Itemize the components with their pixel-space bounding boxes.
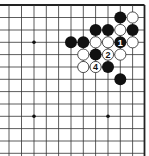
black-stone-icon bbox=[77, 36, 89, 48]
black-stone bbox=[127, 24, 139, 36]
black-stone bbox=[102, 24, 114, 36]
white-stone bbox=[115, 24, 126, 35]
black-stone-icon bbox=[90, 24, 102, 36]
black-stone-icon bbox=[90, 49, 102, 61]
black-stone bbox=[114, 73, 126, 85]
white-stone-icon bbox=[127, 12, 138, 23]
go-board-svg: 124 bbox=[0, 0, 149, 156]
move-number-label: 4 bbox=[93, 62, 98, 72]
white-stone bbox=[78, 49, 89, 60]
white-stone bbox=[115, 49, 126, 60]
black-stone-icon bbox=[114, 73, 126, 85]
white-stone bbox=[127, 12, 138, 23]
black-stone-icon bbox=[102, 61, 114, 73]
go-board-diagram: 124 bbox=[0, 0, 149, 156]
black-stone-icon bbox=[127, 24, 139, 36]
move-number-label: 1 bbox=[118, 38, 123, 48]
white-stone-icon bbox=[127, 37, 138, 48]
black-stone-icon bbox=[102, 24, 114, 36]
star-point bbox=[106, 115, 110, 119]
white-stone-icon bbox=[90, 37, 101, 48]
white-stone bbox=[78, 61, 89, 72]
star-point bbox=[32, 41, 36, 45]
white-stone-icon bbox=[102, 37, 113, 48]
black-stone-icon bbox=[65, 36, 77, 48]
white-stone-icon bbox=[115, 49, 126, 60]
white-stone-icon bbox=[115, 24, 126, 35]
stones: 124 bbox=[65, 12, 139, 86]
white-stone bbox=[90, 37, 101, 48]
black-stone bbox=[90, 24, 102, 36]
black-stone bbox=[65, 36, 77, 48]
black-stone bbox=[102, 61, 114, 73]
black-stone-icon bbox=[114, 12, 126, 24]
star-point bbox=[32, 115, 36, 119]
black-stone bbox=[90, 49, 102, 61]
white-stone bbox=[102, 37, 113, 48]
white-stone-icon bbox=[78, 61, 89, 72]
white-stone-move-2: 2 bbox=[102, 49, 113, 60]
white-stone-move-4: 4 bbox=[90, 61, 101, 72]
white-stone-icon bbox=[78, 49, 89, 60]
black-stone-move-1: 1 bbox=[114, 36, 126, 48]
white-stone bbox=[127, 37, 138, 48]
black-stone bbox=[77, 36, 89, 48]
black-stone bbox=[114, 12, 126, 24]
move-number-label: 2 bbox=[105, 50, 110, 60]
